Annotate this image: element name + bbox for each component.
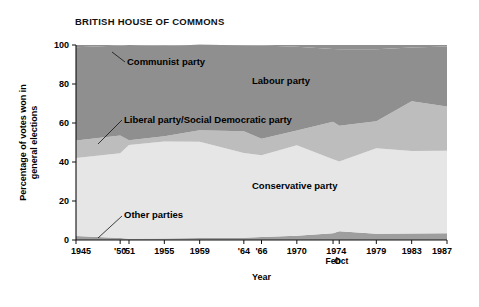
x-tick-label: 1987: [432, 246, 452, 256]
y-tick-label: 60: [59, 118, 69, 128]
x-tick-label: 1970: [287, 246, 307, 256]
y-tick-label: 20: [59, 196, 69, 206]
x-tick-label: '64: [238, 246, 250, 256]
x-tick-label: 1979: [366, 246, 386, 256]
x-sub-label-oct: Oct: [334, 256, 348, 266]
series-label-labour: Labour party: [252, 75, 311, 86]
y-tick-label: 0: [64, 235, 69, 245]
series-label-communist: Communist party: [127, 56, 206, 67]
x-tick-label: 1955: [154, 246, 174, 256]
y-axis-title-line2: general elections: [29, 106, 39, 180]
y-tick-label: 100: [54, 40, 69, 50]
x-axis-title: Year: [252, 272, 272, 282]
y-tick-label: 40: [59, 157, 69, 167]
chart-container: BRITISH HOUSE OF COMMONS 020406080100194…: [0, 0, 479, 307]
x-tick-label: 1974: [326, 246, 346, 256]
series-label-conservative: Conservative party: [252, 180, 338, 191]
x-tick-label: 1983: [402, 246, 422, 256]
x-tick-label: 1945: [71, 246, 91, 256]
x-tick-label: '51: [123, 246, 135, 256]
y-axis-title-line1: Percentage of votes won in: [18, 84, 28, 201]
y-tick-label: 80: [59, 79, 69, 89]
stacked-area-chart: 0204060801001945'50'5119551959'64'661970…: [0, 0, 479, 307]
series-label-liberal: Liberal party/Social Democratic party: [124, 114, 293, 125]
series-label-other: Other parties: [124, 209, 183, 220]
x-tick-label: 1959: [190, 246, 210, 256]
x-tick-label: '66: [255, 246, 267, 256]
